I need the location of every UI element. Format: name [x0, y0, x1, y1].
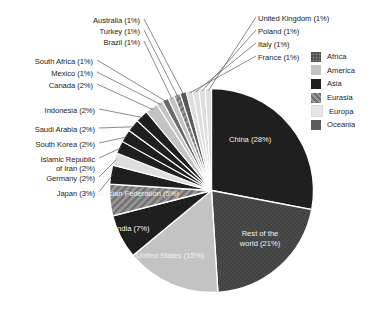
callout-iran-line2: of Iran (2%)	[0, 164, 95, 173]
callout-indonesia: Indonesia (2%)	[0, 106, 95, 115]
callout-iran-line1: Islamic Republic	[0, 155, 95, 164]
slice-label-united-states: United States (15%)	[136, 251, 204, 261]
legend-label: Oceania	[327, 120, 355, 129]
callout-turkey: Turkey (1%)	[20, 27, 140, 36]
legend-label: Europa	[329, 107, 354, 116]
slice-label-russian-federation: Russian Federation (5%)	[95, 189, 179, 199]
callout-japan: Japan (3%)	[0, 189, 95, 198]
leader-line	[190, 56, 256, 93]
leader-line	[144, 19, 184, 94]
pie-slice	[212, 89, 314, 210]
leader-line	[97, 84, 153, 110]
callout-saudi-arabia: Saudi Arabia (2%)	[0, 125, 95, 134]
callout-poland: Poland (1%)	[258, 27, 299, 36]
callout-canada: Canada (2%)	[0, 81, 93, 90]
callout-germany: Germany (2%)	[0, 174, 95, 183]
callout-south-korea: South Korea (2%)	[0, 140, 95, 149]
leader-line	[144, 41, 172, 99]
callout-islamic-republic-of-iran: Islamic Republic of Iran (2%)	[0, 155, 95, 174]
leader-line	[99, 127, 134, 128]
callout-united-kingdom: United Kingdom (1%)	[258, 14, 329, 23]
callout-france: France (1%)	[258, 53, 299, 62]
callout-italy: Italy (1%)	[258, 40, 290, 49]
slice-label-rest-line2: world (21%)	[232, 239, 288, 249]
pie-chart-figure: China (28%) Rest of the world (21%) Unit…	[0, 0, 386, 323]
legend-swatch-icon	[311, 120, 321, 130]
legend-item-america[interactable]: America	[311, 64, 385, 78]
legend-label: Asia	[327, 79, 342, 88]
legend-label: Eurasia	[327, 93, 353, 102]
callout-mexico: Mexico (1%)	[0, 69, 93, 78]
legend-swatch-icon	[311, 65, 321, 75]
legend-label: America	[327, 66, 355, 75]
leader-line	[208, 17, 256, 91]
callout-australia: Australia (1%)	[20, 16, 140, 25]
legend-swatch-icon	[311, 52, 321, 62]
leader-line	[144, 30, 178, 96]
slice-label-india: India (7%)	[115, 224, 150, 234]
legend: AfricaAmericaAsiaEurasiaEuropaOceania	[311, 50, 385, 132]
callout-south-africa: South Africa (1%)	[0, 57, 93, 66]
leader-line	[97, 60, 166, 101]
legend-label: Africa	[327, 52, 346, 61]
legend-swatch-icon	[311, 105, 323, 117]
legend-item-asia[interactable]: Asia	[311, 77, 385, 91]
slice-label-china: China (28%)	[229, 135, 271, 145]
leader-line	[99, 109, 143, 118]
slice-label-rest-of-the-world: Rest of the world (21%)	[232, 229, 288, 248]
slice-label-rest-line1: Rest of the	[232, 229, 288, 239]
legend-swatch-icon	[311, 93, 321, 103]
legend-item-africa[interactable]: Africa	[311, 50, 385, 64]
legend-item-europa[interactable]: Europa	[311, 104, 385, 118]
legend-item-oceania[interactable]: Oceania	[311, 118, 385, 132]
callout-brazil: Brazil (1%)	[20, 38, 140, 47]
legend-swatch-icon	[311, 79, 321, 89]
legend-item-eurasia[interactable]: Eurasia	[311, 91, 385, 105]
